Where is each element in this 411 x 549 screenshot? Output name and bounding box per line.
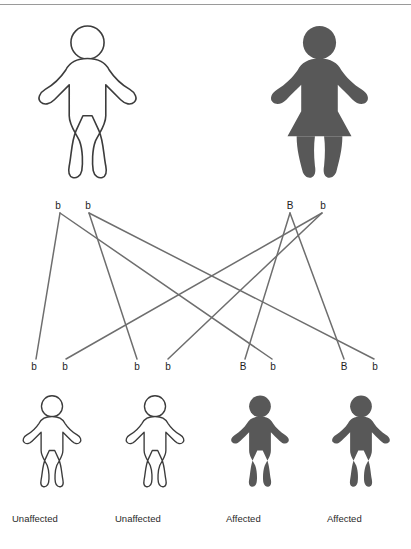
cross-line xyxy=(168,213,322,359)
allele-label-child-2-b: b xyxy=(161,362,175,372)
allele-label-child-3-a: B xyxy=(236,362,250,372)
cross-line-group xyxy=(36,213,374,359)
allele-label-child-1-a: b xyxy=(27,362,41,372)
allele-label-father-2: b xyxy=(81,201,95,211)
parent-figure-father-unaffected xyxy=(30,22,145,182)
offspring-figure-child-4-affected xyxy=(327,392,395,490)
allele-label-mother-2: b xyxy=(316,201,330,211)
allele-label-mother-1: B xyxy=(283,201,297,211)
cross-line xyxy=(290,213,344,359)
allele-label-child-3-b: b xyxy=(266,362,280,372)
offspring-figure-child-2-unaffected xyxy=(121,392,189,490)
parent-figure-mother-affected xyxy=(262,22,377,182)
status-caption-child-4: Affected xyxy=(327,513,362,525)
offspring-figure-child-1-unaffected xyxy=(18,392,86,490)
top-divider-rule xyxy=(0,4,411,5)
cross-line xyxy=(36,213,60,359)
cross-line xyxy=(66,213,322,359)
pedigree-inheritance-diagram: b b B b b b b b B b B b xyxy=(0,0,411,549)
cross-line xyxy=(245,213,290,359)
status-caption-child-1: Unaffected xyxy=(12,513,58,525)
cross-line xyxy=(60,213,272,359)
allele-label-child-4-a: B xyxy=(337,362,351,372)
offspring-figure-child-3-affected xyxy=(226,392,294,490)
allele-label-child-4-b: b xyxy=(368,362,382,372)
allele-label-child-2-a: b xyxy=(130,362,144,372)
status-caption-child-2: Unaffected xyxy=(115,513,161,525)
cross-line xyxy=(89,213,137,359)
cross-line xyxy=(89,213,374,359)
status-caption-child-3: Affected xyxy=(226,513,261,525)
allele-label-child-1-b: b xyxy=(58,362,72,372)
allele-label-father-1: b xyxy=(51,201,65,211)
